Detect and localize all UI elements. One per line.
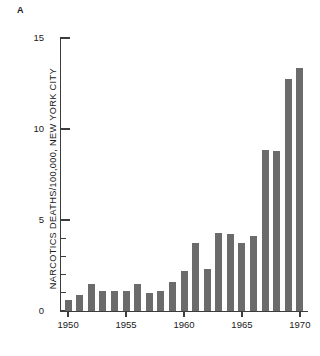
bar-1963 <box>215 233 222 311</box>
x-tick-label: 1960 <box>164 320 204 330</box>
panel-label: A <box>17 6 24 15</box>
x-tick <box>67 312 68 317</box>
bar-1970 <box>296 68 303 311</box>
bar-1961 <box>192 243 199 311</box>
bar-1955 <box>123 291 130 311</box>
bar-1952 <box>88 284 95 311</box>
x-tick <box>299 312 300 317</box>
x-tick <box>183 312 184 317</box>
bar-1967 <box>262 150 269 311</box>
plot-area: 051015 19501955196019651970 <box>60 38 308 311</box>
bar-1957 <box>146 293 153 311</box>
y-tick-label: 0 <box>4 306 44 316</box>
bar-1958 <box>157 291 164 311</box>
x-tick-label: 1965 <box>222 320 262 330</box>
y-tick-label: 5 <box>4 215 44 225</box>
bar-1965 <box>238 243 245 311</box>
bars-layer <box>60 38 308 311</box>
bar-1964 <box>227 234 234 311</box>
figure-panel-a: A NARCOTICS DEATHS/100,000, NEW YORK CIT… <box>0 0 320 356</box>
bar-1954 <box>111 291 118 311</box>
bar-1951 <box>76 295 83 311</box>
y-axis-title: NARCOTICS DEATHS/100,000, NEW YORK CITY <box>49 49 58 309</box>
bar-1966 <box>250 236 257 311</box>
bar-1968 <box>273 151 280 311</box>
y-tick-label: 10 <box>4 124 44 134</box>
x-tick <box>125 312 126 317</box>
x-tick-label: 1955 <box>106 320 146 330</box>
x-tick-label: 1970 <box>280 320 320 330</box>
bar-1953 <box>99 291 106 311</box>
bar-1962 <box>204 269 211 311</box>
x-tick <box>241 312 242 317</box>
bar-1960 <box>181 271 188 311</box>
bar-1956 <box>134 284 141 311</box>
bar-1950 <box>65 300 72 311</box>
bar-1969 <box>285 79 292 311</box>
x-tick-label: 1950 <box>48 320 88 330</box>
y-tick-label: 15 <box>4 33 44 43</box>
bar-1959 <box>169 282 176 311</box>
